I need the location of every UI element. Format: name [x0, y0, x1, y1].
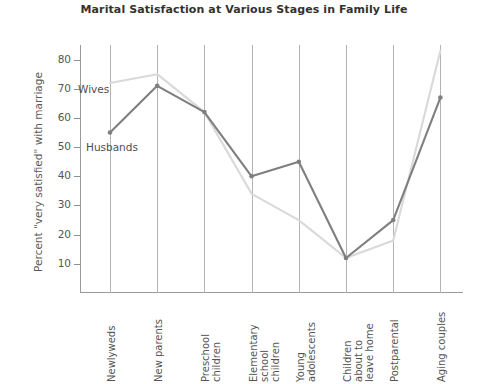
y-tick-label: 80 [31, 53, 71, 65]
y-tick-label: 10 [31, 257, 71, 269]
y-tick-label: 60 [31, 111, 71, 123]
x-label-0: Newlyweds [106, 294, 117, 382]
data-point [108, 130, 113, 135]
series-line-wives [110, 51, 440, 258]
data-point [391, 218, 396, 223]
x-label-7: Aging couples [436, 294, 447, 382]
plot-area: 1020304050607080 [80, 45, 463, 293]
series-label-husbands: Husbands [86, 141, 138, 153]
x-label-6: Postparental [389, 294, 400, 382]
y-tick-label: 40 [31, 169, 71, 181]
data-point [202, 110, 207, 115]
x-label-5: Childrenabout toleave home [342, 294, 375, 382]
x-label-1: New parents [153, 294, 164, 382]
x-label-2: Preschoolchildren [200, 294, 222, 382]
series-lines [80, 45, 463, 293]
y-tick-label: 20 [31, 228, 71, 240]
chart-title: Marital Satisfaction at Various Stages i… [0, 3, 488, 16]
chart-container: Marital Satisfaction at Various Stages i… [0, 0, 488, 384]
series-label-wives: Wives [78, 83, 109, 95]
x-axis-labels: NewlywedsNew parentsPreschoolchildrenEle… [80, 294, 480, 384]
data-point [297, 159, 302, 164]
data-point [438, 95, 443, 100]
y-tick-label: 70 [31, 82, 71, 94]
x-label-3: Elementaryschoolchildren [248, 294, 281, 382]
y-tick-label: 50 [31, 140, 71, 152]
data-point [155, 84, 160, 89]
x-label-4: Youngadolescents [295, 294, 317, 382]
y-tick-label: 30 [31, 198, 71, 210]
series-line-husbands [110, 86, 440, 258]
data-point [344, 256, 349, 261]
data-point [249, 174, 254, 179]
